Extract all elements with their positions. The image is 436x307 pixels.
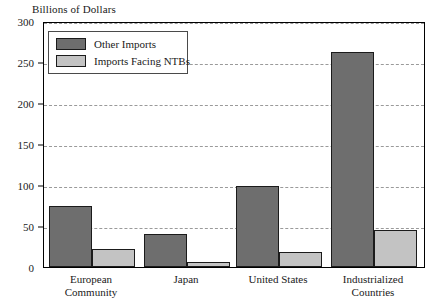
x-axis-category-label-line: Community — [65, 286, 118, 299]
y-axis-tick-label: 100 — [0, 180, 34, 192]
legend-label-other-imports: Other Imports — [94, 38, 156, 50]
x-axis-category-label-line: Countries — [343, 286, 403, 299]
x-axis-category-label-line: United States — [249, 273, 308, 286]
bar-imports-facing-ntbs — [279, 252, 322, 267]
legend-item-imports-facing-ntbs: Imports Facing NTBs — [56, 54, 181, 68]
y-axis-tick-label: 250 — [0, 57, 34, 69]
y-axis-tick-label: 300 — [0, 16, 34, 28]
bar-imports-facing-ntbs — [374, 230, 417, 267]
x-axis-category-label: EuropeanCommunity — [65, 273, 118, 299]
chart-legend: Other Imports Imports Facing NTBs — [48, 31, 188, 74]
x-axis-category-label: United States — [249, 273, 308, 286]
bar-other-imports — [331, 52, 374, 267]
legend-swatch-icon-other-imports — [56, 38, 86, 50]
x-axis-category-label: IndustrializedCountries — [343, 273, 403, 299]
legend-item-other-imports: Other Imports — [56, 37, 181, 51]
bar-other-imports — [144, 234, 187, 267]
x-axis-category-label-line: Industrialized — [343, 273, 403, 286]
y-axis-tick-label: 150 — [0, 139, 34, 151]
x-axis-category-label-line: Japan — [173, 273, 198, 286]
legend-label-imports-facing-ntbs: Imports Facing NTBs — [94, 55, 190, 67]
x-axis-category-label-line: European — [65, 273, 118, 286]
y-axis-tick-label: 50 — [0, 221, 34, 233]
y-axis-tick-label: 0 — [0, 262, 34, 274]
y-axis-tick-label: 200 — [0, 98, 34, 110]
y-axis-title: Billions of Dollars — [32, 3, 116, 15]
bar-other-imports — [49, 206, 92, 267]
bar-imports-facing-ntbs — [92, 249, 135, 267]
bar-imports-facing-ntbs — [187, 262, 230, 267]
bar-chart: Billions of Dollars 050100150200250300 E… — [0, 0, 436, 307]
bar-other-imports — [236, 186, 279, 267]
x-axis-category-label: Japan — [173, 273, 198, 286]
legend-swatch-icon-imports-facing-ntbs — [56, 55, 86, 67]
